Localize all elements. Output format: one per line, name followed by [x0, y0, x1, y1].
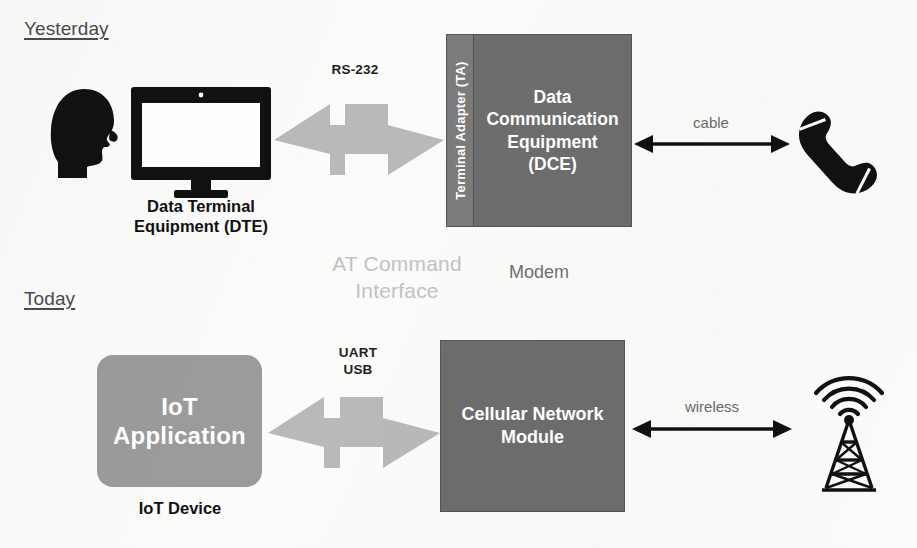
iot-device-caption: IoT Device [96, 498, 264, 518]
at-command-interface-text: AT Command Interface [277, 250, 517, 305]
uart-usb-double-headed-arrow [268, 385, 440, 481]
head-silhouette-icon [48, 88, 120, 180]
diagram-canvas: Yesterday Data Terminal Equipment (DTE) … [0, 0, 917, 548]
dce-label: Data Communication Equipment (DCE) [486, 86, 618, 176]
era-label-yesterday: Yesterday [24, 18, 109, 40]
link-label-cable: cable [651, 114, 771, 131]
link-label-wireless: wireless [647, 398, 777, 415]
bus-label-uart-usb: UART USB [313, 345, 403, 379]
desktop-monitor-icon [130, 86, 272, 198]
dte-caption: Data Terminal Equipment (DTE) [96, 196, 306, 236]
terminal-adapter-strip: Terminal Adapter (TA) [447, 35, 474, 226]
cell-tower-icon [796, 362, 902, 492]
era-label-today: Today [24, 288, 75, 310]
telephone-handset-icon [806, 88, 898, 192]
rs232-double-headed-arrow [274, 92, 444, 188]
dce-body: Data Communication Equipment (DCE) [474, 35, 631, 226]
bus-label-rs232: RS-232 [300, 62, 410, 79]
wireless-double-headed-arrow [632, 418, 792, 440]
dce-box: Terminal Adapter (TA) Data Communication… [446, 34, 632, 227]
cellular-network-module-box: Cellular Network Module [440, 340, 625, 512]
iot-application-label: IoT Application [113, 392, 246, 451]
iot-application-box: IoT Application [97, 355, 262, 487]
terminal-adapter-label: Terminal Adapter (TA) [453, 61, 468, 199]
cellular-network-module-label: Cellular Network Module [461, 403, 603, 450]
cable-double-headed-arrow [634, 133, 790, 155]
